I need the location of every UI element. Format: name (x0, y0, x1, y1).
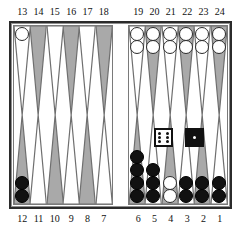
backgammon-board: 131415161718 192021222324 121110987 6543… (0, 0, 241, 230)
point-label-15: 15 (47, 5, 63, 18)
point-triangle-14 (30, 26, 46, 115)
point-16[interactable] (63, 26, 79, 115)
point-label-1: 1 (212, 212, 228, 225)
checker-white-point-24[interactable] (212, 27, 226, 41)
point-22[interactable] (178, 26, 194, 115)
point-8[interactable] (79, 115, 95, 204)
point-17[interactable] (79, 26, 95, 115)
half-board-left (13, 25, 113, 205)
point-11[interactable] (30, 115, 46, 204)
point-18[interactable] (96, 26, 112, 115)
point-label-2: 2 (195, 212, 211, 225)
point-label-3: 3 (179, 212, 195, 225)
point-20[interactable] (145, 26, 161, 115)
point-label-7: 7 (96, 212, 112, 225)
point-label-11: 11 (30, 212, 46, 225)
point-label-5: 5 (146, 212, 162, 225)
point-24[interactable] (211, 26, 227, 115)
point-1[interactable] (211, 115, 227, 204)
point-label-19: 19 (130, 5, 146, 18)
point-15[interactable] (47, 26, 63, 115)
checker-white-point-21[interactable] (163, 40, 177, 54)
point-23[interactable] (194, 26, 210, 115)
point-2[interactable] (194, 115, 210, 204)
point-label-18: 18 (96, 5, 112, 18)
quadrant-bottom-right (129, 115, 227, 204)
point-triangle-17 (79, 26, 95, 115)
quadrant-top-left (14, 26, 112, 115)
point-labels-top-left: 131415161718 (14, 5, 112, 18)
board-bar[interactable] (115, 25, 128, 205)
point-10[interactable] (47, 115, 63, 204)
point-triangle-15 (47, 26, 63, 115)
point-triangle-11 (30, 115, 46, 204)
checker-white-point-24[interactable] (212, 40, 226, 54)
point-3[interactable] (178, 115, 194, 204)
point-label-23: 23 (195, 5, 211, 18)
point-7[interactable] (96, 115, 112, 204)
checker-white-point-21[interactable] (163, 27, 177, 41)
point-label-21: 21 (163, 5, 179, 18)
board-frame (9, 21, 232, 209)
point-13[interactable] (14, 26, 30, 115)
point-12[interactable] (14, 115, 30, 204)
point-triangle-18 (96, 26, 112, 115)
point-triangle-7 (96, 115, 112, 204)
point-21[interactable] (162, 26, 178, 115)
board-inner-border (11, 23, 230, 207)
point-label-9: 9 (63, 212, 79, 225)
point-label-4: 4 (163, 212, 179, 225)
point-triangle-9 (63, 115, 79, 204)
quadrant-bottom-left (14, 115, 112, 204)
checker-white-point-4[interactable] (163, 176, 177, 190)
point-9[interactable] (63, 115, 79, 204)
point-labels-top-right: 192021222324 (130, 5, 228, 18)
point-label-10: 10 (47, 212, 63, 225)
point-label-24: 24 (212, 5, 228, 18)
point-6[interactable] (129, 115, 145, 204)
point-4[interactable] (162, 115, 178, 204)
point-triangle-10 (47, 115, 63, 204)
point-label-13: 13 (14, 5, 30, 18)
point-label-14: 14 (30, 5, 46, 18)
point-triangle-8 (79, 115, 95, 204)
point-label-16: 16 (63, 5, 79, 18)
point-label-22: 22 (179, 5, 195, 18)
point-label-12: 12 (14, 212, 30, 225)
point-label-8: 8 (79, 212, 95, 225)
point-19[interactable] (129, 26, 145, 115)
point-label-20: 20 (146, 5, 162, 18)
checker-black-point-1[interactable] (212, 189, 226, 203)
point-triangle-16 (63, 26, 79, 115)
point-label-17: 17 (79, 5, 95, 18)
point-5[interactable] (145, 115, 161, 204)
point-labels-bottom-left: 121110987 (14, 212, 112, 225)
point-14[interactable] (30, 26, 46, 115)
checker-black-point-1[interactable] (212, 176, 226, 190)
checker-white-point-4[interactable] (163, 189, 177, 203)
quadrant-top-right (129, 26, 227, 115)
half-board-right (128, 25, 228, 205)
point-label-6: 6 (130, 212, 146, 225)
point-labels-bottom-right: 654321 (130, 212, 228, 225)
